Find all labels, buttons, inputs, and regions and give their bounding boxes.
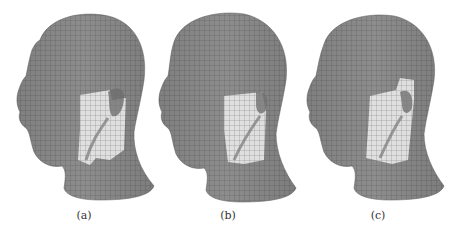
panel-label-b: (b) xyxy=(208,209,248,222)
panel-a: (a) xyxy=(0,0,152,236)
head-mesh-a xyxy=(0,0,160,210)
head-mesh-c xyxy=(296,0,456,210)
panel-b: (b) xyxy=(144,0,296,236)
panel-label-a: (a) xyxy=(64,209,104,222)
panel-c: (c) xyxy=(296,0,448,236)
panel-label-c: (c) xyxy=(358,209,398,222)
head-mesh-b xyxy=(144,0,304,210)
